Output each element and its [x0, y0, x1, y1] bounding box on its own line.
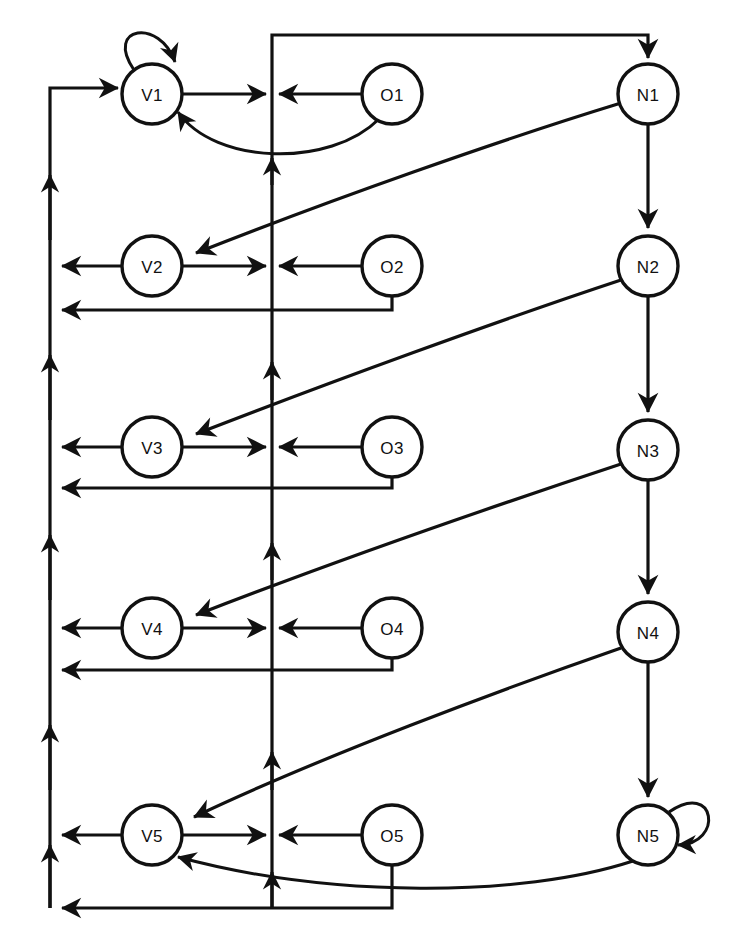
diagram-canvas: V1 V2 V3 V4 V5 O1: [0, 0, 746, 949]
node-n1[interactable]: N1: [618, 64, 678, 124]
node-n2[interactable]: N2: [618, 236, 678, 296]
center-bus: [272, 35, 648, 908]
node-n1-label: N1: [637, 86, 659, 105]
edge-o1-to-v1-feedback: [178, 112, 379, 154]
node-o1-label: O1: [380, 86, 403, 105]
node-v5[interactable]: V5: [122, 805, 182, 865]
node-v2[interactable]: V2: [122, 236, 182, 296]
node-v1-label: V1: [141, 86, 162, 105]
node-o5[interactable]: O5: [362, 805, 422, 865]
node-v3-label: V3: [141, 439, 162, 458]
node-n5[interactable]: N5: [618, 805, 678, 865]
node-v3[interactable]: V3: [122, 417, 182, 477]
node-o3-label: O3: [380, 439, 403, 458]
node-o5-label: O5: [380, 827, 403, 846]
node-v5-label: V5: [141, 827, 162, 846]
edge-o5-return-to-left-bus: [62, 865, 392, 908]
node-n4[interactable]: N4: [618, 602, 678, 662]
edge-n2-to-v3-diagonal: [196, 280, 621, 434]
node-o4[interactable]: O4: [362, 598, 422, 658]
edge-o4-return-to-left-bus: [62, 658, 392, 670]
node-o2-label: O2: [380, 258, 403, 277]
node-n5-label: N5: [637, 827, 659, 846]
nodes-layer: V1 V2 V3 V4 V5 O1: [122, 64, 678, 865]
left-bus: [50, 88, 118, 908]
node-o3[interactable]: O3: [362, 417, 422, 477]
edge-o2-return-to-left-bus: [62, 296, 392, 310]
center-bus-line-to-n1: [272, 35, 648, 908]
edge-n1-to-v2-diagonal: [196, 103, 621, 253]
edge-n4-to-v5-diagonal: [194, 648, 621, 817]
left-bus-line-to-v1: [50, 88, 118, 908]
node-n3[interactable]: N3: [618, 420, 678, 480]
node-n3-label: N3: [637, 442, 659, 461]
node-v1[interactable]: V1: [122, 64, 182, 124]
edge-o3-return-to-left-bus: [62, 477, 392, 488]
node-n4-label: N4: [637, 624, 659, 643]
state-transition-diagram: V1 V2 V3 V4 V5 O1: [0, 0, 746, 949]
node-o2[interactable]: O2: [362, 236, 422, 296]
node-n2-label: N2: [637, 258, 659, 277]
node-v4-label: V4: [141, 620, 162, 639]
node-o1[interactable]: O1: [362, 64, 422, 124]
node-v4[interactable]: V4: [122, 598, 182, 658]
node-o4-label: O4: [380, 620, 403, 639]
node-v2-label: V2: [141, 258, 162, 277]
